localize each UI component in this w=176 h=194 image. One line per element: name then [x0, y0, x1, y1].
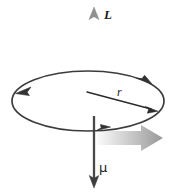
angular-momentum-label: L [104, 8, 112, 21]
radius-arrow [87, 92, 158, 113]
loop-direction-arrowhead-right [137, 75, 153, 84]
radius-label: r [117, 86, 122, 98]
rotation-direction-block-arrow [97, 125, 163, 151]
angular-momentum-arrow [89, 7, 99, 104]
magnetic-moment-label: μ [99, 161, 107, 174]
diagram-canvas [0, 0, 176, 194]
physics-diagram-figure: L r μ [0, 0, 176, 194]
magnetic-moment-arrow [89, 116, 99, 188]
